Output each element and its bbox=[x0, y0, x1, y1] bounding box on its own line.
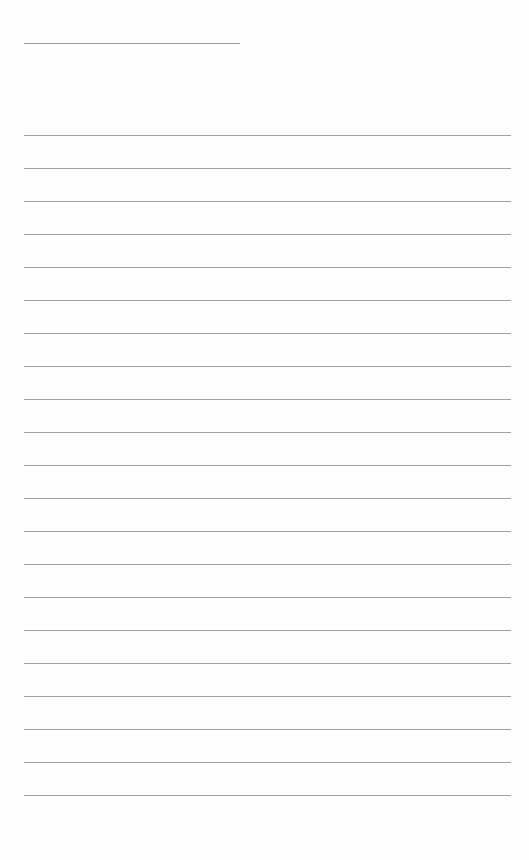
ruled-line[interactable] bbox=[24, 300, 511, 301]
ruled-line[interactable] bbox=[24, 729, 511, 730]
ruled-line[interactable] bbox=[24, 432, 511, 433]
ruled-line[interactable] bbox=[24, 597, 511, 598]
ruled-line[interactable] bbox=[24, 762, 511, 763]
ruled-line[interactable] bbox=[24, 399, 511, 400]
ruled-line[interactable] bbox=[24, 498, 511, 499]
ruled-line[interactable] bbox=[24, 663, 511, 664]
ruled-line[interactable] bbox=[24, 564, 511, 565]
ruled-line[interactable] bbox=[24, 333, 511, 334]
notepad-page bbox=[0, 0, 529, 860]
ruled-lines bbox=[24, 0, 511, 860]
ruled-line[interactable] bbox=[24, 795, 511, 796]
ruled-line[interactable] bbox=[24, 531, 511, 532]
ruled-line[interactable] bbox=[24, 696, 511, 697]
ruled-line[interactable] bbox=[24, 630, 511, 631]
ruled-line[interactable] bbox=[24, 135, 511, 136]
ruled-line[interactable] bbox=[24, 168, 511, 169]
ruled-line[interactable] bbox=[24, 267, 511, 268]
ruled-line[interactable] bbox=[24, 465, 511, 466]
ruled-line[interactable] bbox=[24, 366, 511, 367]
ruled-line[interactable] bbox=[24, 234, 511, 235]
ruled-line[interactable] bbox=[24, 201, 511, 202]
